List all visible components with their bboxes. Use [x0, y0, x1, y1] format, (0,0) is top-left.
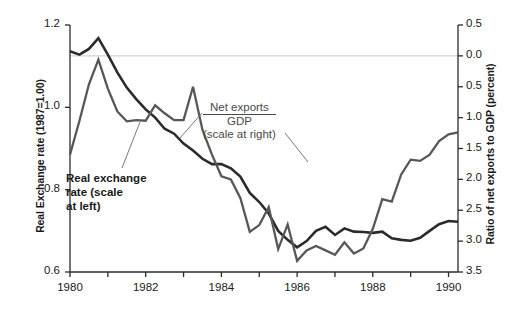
- y-tick-label-right: 2.5: [466, 202, 506, 214]
- plot-area: [0, 0, 514, 314]
- y-tick-label-right: 1.5: [466, 141, 506, 153]
- net-exports-scale-note: (scale at right): [203, 128, 276, 141]
- y-tick-label-left: 1.2: [26, 17, 60, 29]
- x-tick-label: 1986: [273, 281, 321, 293]
- y-tick-label-right: 3.0: [466, 233, 506, 245]
- y-tick-label-right: 0.5: [466, 17, 506, 29]
- leader-real-exchange: [122, 122, 140, 168]
- real-exchange-line-1: Real exchange: [66, 171, 147, 185]
- y-tick-label-right: 0.0: [466, 48, 506, 60]
- real-exchange-line-2: rate (scale: [66, 185, 147, 199]
- leader-net-exports: [180, 113, 202, 138]
- y-tick-label-left: 0.8: [26, 182, 60, 194]
- real-exchange-annotation: Real exchange rate (scale at left): [66, 171, 147, 213]
- x-tick-label: 1984: [197, 281, 245, 293]
- net-exports-annotation: Net exports GDP (scale at right): [203, 101, 276, 141]
- y-tick-label-right: 0.5: [466, 79, 506, 91]
- y-tick-label-left: 1.0: [26, 99, 60, 111]
- y-tick-label-left: 0.6: [26, 264, 60, 276]
- y-axis-left-title: Real Exchange rate (1987=1.00): [34, 56, 46, 256]
- x-tick-label: 1988: [349, 281, 397, 293]
- x-tick-label: 1982: [122, 281, 170, 293]
- y-tick-label-right: 3.5: [466, 264, 506, 276]
- y-tick-label-right: 2.0: [466, 171, 506, 183]
- real-exchange-line-3: at left): [66, 199, 147, 213]
- chart-container: Real Exchange rate (1987=1.00) Ratio of …: [0, 0, 514, 314]
- leader-net-exports-2: [285, 133, 308, 162]
- x-tick-label: 1990: [425, 281, 473, 293]
- y-tick-label-right: 1.0: [466, 110, 506, 122]
- x-tick-label: 1980: [46, 281, 94, 293]
- net-exports-numerator: Net exports: [203, 101, 276, 115]
- net-exports-denominator: GDP: [203, 115, 276, 128]
